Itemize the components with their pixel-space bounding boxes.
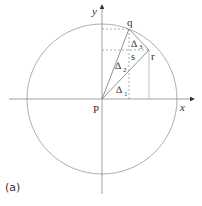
triangle-3-label: ∆ 3 <box>131 38 143 51</box>
point-p-label: P <box>93 103 99 115</box>
svg-text:∆: ∆ <box>131 38 137 49</box>
svg-text:∆: ∆ <box>115 60 121 71</box>
panel-label: (a) <box>5 181 20 194</box>
svg-text:1: 1 <box>124 90 128 98</box>
point-s-label: s <box>131 51 135 62</box>
unit-circle-diagram: y x P q r s ∆ 3 ∆ 2 ∆ 1 (a) <box>0 0 202 206</box>
svg-text:∆: ∆ <box>116 84 122 95</box>
y-axis-label: y <box>91 5 97 17</box>
point-q-label: q <box>127 16 133 28</box>
svg-text:2: 2 <box>123 66 127 74</box>
svg-text:3: 3 <box>139 43 143 51</box>
point-r-label: r <box>151 50 155 62</box>
x-axis-label: x <box>179 101 185 113</box>
triangle-2-label: ∆ 2 <box>115 60 127 74</box>
triangle-1-label: ∆ 1 <box>116 84 128 98</box>
